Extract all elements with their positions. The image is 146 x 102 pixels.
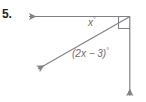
degree-symbol-icon: °	[93, 16, 96, 23]
degree-symbol-icon: °	[106, 47, 109, 54]
angle-label-expression: (2x − 3)°	[72, 47, 109, 59]
angle-label-x: x°	[88, 16, 96, 28]
diagonal-ray	[38, 17, 130, 70]
geometry-problem-figure: 5. x° (2x − 3)°	[0, 0, 146, 102]
angle-label-expression-text: (2x − 3)	[72, 48, 106, 59]
